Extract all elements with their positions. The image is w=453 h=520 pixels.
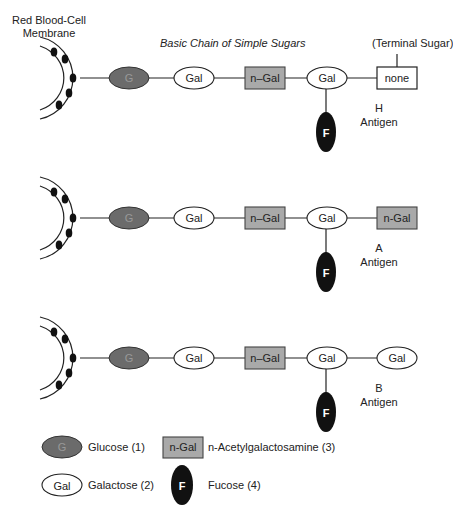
fucose-node-label: F: [323, 127, 330, 139]
galactose-node-label: Gal: [318, 352, 335, 364]
membrane-protein-dot: [56, 101, 63, 110]
terminal-sugar-label: (Terminal Sugar): [372, 37, 453, 50]
membrane-label-line1: Red Blood-Cell: [8, 14, 90, 27]
terminal-node-label: Gal: [388, 352, 405, 364]
antigen-letter: B: [375, 382, 382, 394]
ngal-node-label: n–Gal: [250, 212, 279, 224]
fucose-node-label: F: [323, 407, 330, 419]
galactose-node-label: Gal: [185, 352, 202, 364]
galactose-node-label: Gal: [318, 72, 335, 84]
membrane-protein-dot: [66, 369, 73, 378]
glucose-node-label: G: [125, 72, 134, 84]
terminal-node-label: none: [385, 72, 409, 84]
legend-glucose-label: Glucose (1): [88, 441, 145, 453]
membrane-inner-arc: [40, 326, 64, 390]
membrane-label-line2: Membrane: [8, 27, 90, 40]
antigen-letter: H: [375, 102, 383, 114]
membrane-inner-arc: [40, 46, 64, 110]
membrane-protein-dot: [70, 354, 77, 363]
legend-ngal-label: n-Acetylgalactosamine (3): [208, 441, 335, 453]
galactose-node-label: Gal: [185, 72, 202, 84]
membrane-inner-arc: [40, 186, 64, 250]
membrane-protein-dot: [62, 335, 69, 344]
membrane-protein-dot: [51, 48, 58, 57]
membrane-protein-dot: [70, 214, 77, 223]
fucose-node-label: F: [323, 267, 330, 279]
glucose-node-label: G: [125, 352, 134, 364]
glucose-node-label: G: [125, 212, 134, 224]
galactose-node-label: Gal: [318, 212, 335, 224]
legend-galactose-label: Galactose (2): [88, 479, 154, 491]
legend-galactose-symbol: Gal: [53, 480, 70, 492]
membrane-protein-dot: [51, 188, 58, 197]
membrane-protein-dot: [51, 328, 58, 337]
membrane-protein-dot: [56, 241, 63, 250]
terminal-node-label: n-Gal: [384, 212, 411, 224]
legend-fucose-label: Fucose (4): [208, 479, 261, 491]
ngal-node-label: n–Gal: [250, 72, 279, 84]
antigen-word: Antigen: [360, 116, 397, 128]
membrane-protein-dot: [62, 195, 69, 204]
membrane-protein-dot: [66, 89, 73, 98]
antigen-word: Antigen: [360, 396, 397, 408]
antigen-row-3: GGaln–GalGalFGalBAntigen: [40, 317, 417, 432]
legend-fucose-symbol: F: [179, 480, 186, 492]
legend-ngal-symbol: n-Gal: [170, 441, 197, 453]
antigen-letter: A: [375, 242, 383, 254]
antigen-word: Antigen: [360, 256, 397, 268]
membrane-protein-dot: [56, 381, 63, 390]
ngal-node-label: n–Gal: [250, 352, 279, 364]
galactose-node-label: Gal: [185, 212, 202, 224]
chain-title: Basic Chain of Simple Sugars: [160, 37, 306, 49]
membrane-protein-dot: [70, 74, 77, 83]
membrane-protein-dot: [62, 55, 69, 64]
legend: GGlucose (1)n-Galn-Acetylgalactosamine (…: [42, 436, 335, 505]
membrane-protein-dot: [66, 229, 73, 238]
antigen-row-1: GGaln–GalGalFnoneHAntigen: [40, 37, 417, 152]
membrane-label: Red Blood-Cell Membrane: [8, 14, 90, 40]
legend-glucose-symbol: G: [58, 441, 67, 453]
antigen-row-2: GGaln–GalGalFn-GalAAntigen: [40, 177, 417, 292]
